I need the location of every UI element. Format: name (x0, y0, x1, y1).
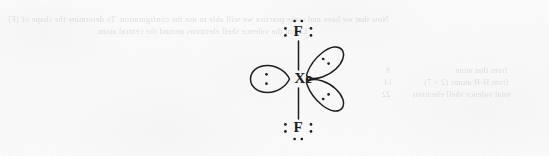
electron-pair-lobe-lower-right (322, 93, 330, 100)
atom-label-xenon: Xe (290, 70, 316, 86)
electron-pair-fluorine-top-right (310, 27, 313, 37)
atom-label-fluorine-bottom: F (289, 120, 307, 135)
xef2-lewis-structure-diagram (0, 0, 549, 156)
scanned-page: Now that we have and some practice we wi… (0, 0, 549, 156)
electron-pair-fluorine-bottom-left (284, 123, 287, 133)
electron-pair-fluorine-bottom-right (310, 123, 313, 133)
lone-pair-lobe-left (251, 66, 290, 93)
electron-pair-fluorine-top-above (293, 20, 303, 23)
electron-pair-fluorine-bottom-below (293, 138, 303, 141)
electron-pair-lobe-left (265, 73, 268, 85)
electron-pair-fluorine-top-left (284, 27, 287, 37)
electron-pair-lobe-upper-right (322, 58, 330, 65)
atom-label-fluorine-top: F (289, 24, 307, 39)
